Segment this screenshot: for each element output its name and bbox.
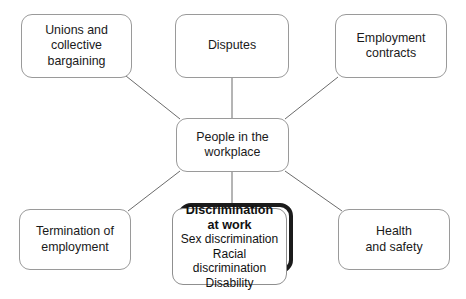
node-people-in-the-workplace[interactable]: People in the workplace <box>176 118 289 172</box>
node-termination-of-employment[interactable]: Termination of employment <box>19 209 131 270</box>
node-discrimination-item-racial: Racial discrimination <box>175 247 284 276</box>
node-discrimination-content: Discrimination at work Sex discriminatio… <box>173 203 286 290</box>
node-termination-of-employment-label: Termination of employment <box>20 224 130 255</box>
node-health-and-safety[interactable]: Health and safety <box>338 209 450 270</box>
node-discrimination-heading: Discrimination at work <box>175 203 284 233</box>
node-unions[interactable]: Unions and collective bargaining <box>21 14 132 78</box>
node-employment-contracts-label: Employment contracts <box>336 31 446 62</box>
connector-unions-center <box>126 76 180 119</box>
node-discrimination-item-disability: Disability <box>175 276 284 290</box>
node-disputes-label: Disputes <box>176 38 288 54</box>
node-discrimination-at-work-group: Discrimination at work Sex discriminatio… <box>172 203 294 287</box>
connector-contracts-center <box>285 77 338 119</box>
node-discrimination-item-sex: Sex discrimination <box>175 232 284 246</box>
node-disputes[interactable]: Disputes <box>175 14 289 78</box>
node-people-in-the-workplace-label: People in the workplace <box>177 130 288 161</box>
node-health-and-safety-label: Health and safety <box>339 224 449 255</box>
diagram-canvas: Unions and collective bargaining Dispute… <box>0 0 466 299</box>
node-discrimination-at-work[interactable]: Discrimination at work Sex discriminatio… <box>172 208 287 285</box>
node-unions-label: Unions and collective bargaining <box>22 23 131 70</box>
node-employment-contracts[interactable]: Employment contracts <box>335 14 447 78</box>
